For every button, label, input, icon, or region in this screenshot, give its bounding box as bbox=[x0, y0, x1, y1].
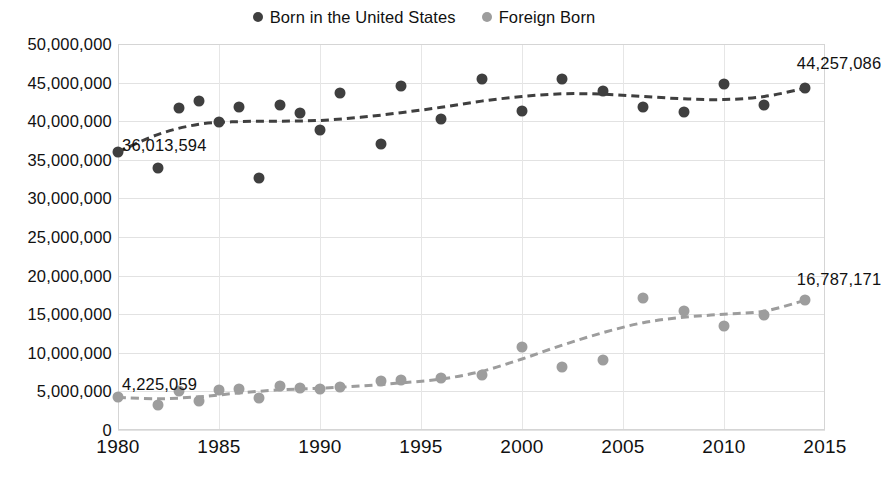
data-point[interactable] bbox=[294, 382, 305, 393]
x-axis-tick-label: 2000 bbox=[500, 436, 543, 458]
data-point[interactable] bbox=[274, 380, 285, 391]
legend-item-foreign-born[interactable]: Foreign Born bbox=[482, 8, 596, 27]
data-point[interactable] bbox=[335, 381, 346, 392]
data-point[interactable] bbox=[375, 375, 386, 386]
x-axis-tick-label: 1980 bbox=[96, 436, 139, 458]
data-point[interactable] bbox=[395, 81, 406, 92]
plot-border bbox=[118, 44, 825, 430]
data-point[interactable] bbox=[638, 101, 649, 112]
data-point[interactable] bbox=[214, 384, 225, 395]
legend-item-born-in-the-united-states[interactable]: Born in the United States bbox=[253, 8, 456, 27]
data-point[interactable] bbox=[557, 73, 568, 84]
data-point[interactable] bbox=[254, 173, 265, 184]
x-axis-labels: 19801985199019952000200520102015 bbox=[0, 436, 848, 466]
data-point[interactable] bbox=[234, 101, 245, 112]
data-point[interactable] bbox=[173, 103, 184, 114]
data-point[interactable] bbox=[153, 162, 164, 173]
data-point[interactable] bbox=[759, 99, 770, 110]
data-point[interactable] bbox=[678, 306, 689, 317]
x-axis-tick-label: 1995 bbox=[399, 436, 442, 458]
data-point[interactable] bbox=[597, 354, 608, 365]
data-point[interactable] bbox=[719, 79, 730, 90]
y-axis-tick-label: 45,000,000 bbox=[27, 73, 112, 92]
data-point[interactable] bbox=[678, 106, 689, 117]
data-point[interactable] bbox=[254, 392, 265, 403]
data-point[interactable] bbox=[193, 96, 204, 107]
y-axis-tick-label: 40,000,000 bbox=[27, 112, 112, 131]
gridline-horizontal bbox=[118, 430, 825, 431]
plot-area: 36,013,59444,257,0864,225,05916,787,171 bbox=[118, 44, 825, 430]
data-label: 44,257,086 bbox=[797, 54, 881, 73]
x-axis-tick-label: 1990 bbox=[298, 436, 341, 458]
legend-marker-dot-icon bbox=[253, 12, 263, 22]
y-axis-tick-label: 15,000,000 bbox=[27, 305, 112, 324]
data-point[interactable] bbox=[315, 124, 326, 135]
data-point[interactable] bbox=[315, 384, 326, 395]
data-label: 16,787,171 bbox=[797, 270, 881, 289]
data-point[interactable] bbox=[294, 108, 305, 119]
data-point[interactable] bbox=[517, 341, 528, 352]
y-axis-tick-label: 10,000,000 bbox=[27, 343, 112, 362]
x-axis-tick-label: 2010 bbox=[702, 436, 745, 458]
data-point[interactable] bbox=[274, 99, 285, 110]
y-axis-tick-label: 50,000,000 bbox=[27, 35, 112, 54]
data-point[interactable] bbox=[395, 374, 406, 385]
y-axis-tick-label: 25,000,000 bbox=[27, 228, 112, 247]
data-point[interactable] bbox=[153, 399, 164, 410]
data-point[interactable] bbox=[375, 139, 386, 150]
data-point[interactable] bbox=[214, 116, 225, 127]
data-point[interactable] bbox=[638, 292, 649, 303]
y-axis-tick-label: 35,000,000 bbox=[27, 150, 112, 169]
y-axis-tick-label: 30,000,000 bbox=[27, 189, 112, 208]
data-point[interactable] bbox=[476, 370, 487, 381]
y-axis-tick-label: 5,000,000 bbox=[37, 382, 112, 401]
legend-marker-dot-icon bbox=[482, 12, 492, 22]
data-label: 4,225,059 bbox=[122, 375, 197, 394]
x-axis-tick-label: 2005 bbox=[601, 436, 644, 458]
data-point[interactable] bbox=[597, 86, 608, 97]
data-point[interactable] bbox=[557, 361, 568, 372]
data-point[interactable] bbox=[759, 309, 770, 320]
data-point[interactable] bbox=[719, 320, 730, 331]
legend-label: Born in the United States bbox=[270, 8, 456, 27]
data-point[interactable] bbox=[436, 373, 447, 384]
data-point[interactable] bbox=[193, 396, 204, 407]
data-point[interactable] bbox=[436, 113, 447, 124]
x-axis-tick-label: 1985 bbox=[197, 436, 240, 458]
data-point[interactable] bbox=[476, 73, 487, 84]
data-point[interactable] bbox=[799, 295, 810, 306]
data-label: 36,013,594 bbox=[122, 136, 207, 155]
x-axis-tick-label: 2015 bbox=[803, 436, 846, 458]
data-point[interactable] bbox=[335, 88, 346, 99]
y-axis-tick-label: 20,000,000 bbox=[27, 266, 112, 285]
data-point[interactable] bbox=[234, 384, 245, 395]
chart-legend: Born in the United States Foreign Born bbox=[0, 4, 848, 30]
data-point[interactable] bbox=[799, 83, 810, 94]
legend-label: Foreign Born bbox=[499, 8, 596, 27]
data-point[interactable] bbox=[517, 106, 528, 117]
